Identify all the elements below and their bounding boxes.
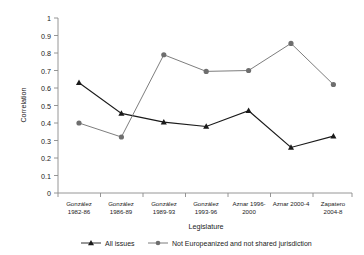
- y-tick-label: 0.3: [41, 137, 51, 146]
- legend-label: Not Europeanized and not shared jurisdic…: [172, 240, 312, 248]
- y-tick-label: 0.4: [41, 119, 51, 128]
- chart-svg: 1 0.9 0.8 0.7 0.6 0.5 0.4 0.3 0.2 0.1 0 …: [0, 0, 364, 255]
- x-tick-label-line2: 2004-8: [324, 208, 344, 215]
- legend-label: All issues: [105, 240, 135, 247]
- circle-marker-icon: [246, 68, 251, 73]
- x-tick-label-line1: González: [66, 200, 92, 207]
- circle-marker-icon: [119, 134, 124, 139]
- x-tick-label-line1: Aznar 1996-: [232, 200, 265, 207]
- x-tick-label-line1: Zapatero: [321, 200, 346, 207]
- y-tick-label: 1: [47, 14, 51, 23]
- x-tick-label-line1: Aznar 2000-4: [273, 200, 310, 207]
- y-tick-label: 0.5: [41, 102, 51, 111]
- circle-marker-icon: [288, 41, 293, 46]
- y-tick-label: 0.7: [41, 67, 51, 76]
- x-tick-label-line2: 1986-89: [110, 208, 133, 215]
- y-tick-label: 0.2: [41, 154, 51, 163]
- y-tick-label: 0.9: [41, 32, 51, 41]
- circle-marker-icon: [204, 69, 209, 74]
- circle-marker-icon: [331, 82, 336, 87]
- chart-background: [0, 0, 364, 255]
- y-tick-label: 0: [47, 189, 51, 198]
- x-tick-label-line1: González: [151, 200, 177, 207]
- legend-entry-not-europeanized: Not Europeanized and not shared jurisdic…: [148, 240, 312, 248]
- circle-marker-icon: [156, 241, 161, 246]
- x-tick-label-line2: 1993-96: [195, 208, 218, 215]
- x-tick-label-line2: 1989-93: [153, 208, 176, 215]
- circle-marker-icon: [76, 120, 81, 125]
- circle-marker-icon: [161, 52, 166, 57]
- correlation-line-chart: 1 0.9 0.8 0.7 0.6 0.5 0.4 0.3 0.2 0.1 0 …: [0, 0, 364, 255]
- x-tick-label-line2: 1982-86: [68, 208, 91, 215]
- y-tick-label: 0.8: [41, 49, 51, 58]
- y-tick-label: 0.6: [41, 84, 51, 93]
- x-axis-title: Legislature: [188, 222, 223, 231]
- y-tick-label: 0.1: [41, 172, 51, 181]
- x-tick-label-line1: González: [193, 200, 219, 207]
- x-tick-label-line1: González: [108, 200, 134, 207]
- x-tick-label-line2: 2000: [242, 208, 256, 215]
- chart-legend: All issues Not Europeanized and not shar…: [81, 240, 312, 248]
- y-axis-title: Correlation: [19, 87, 28, 122]
